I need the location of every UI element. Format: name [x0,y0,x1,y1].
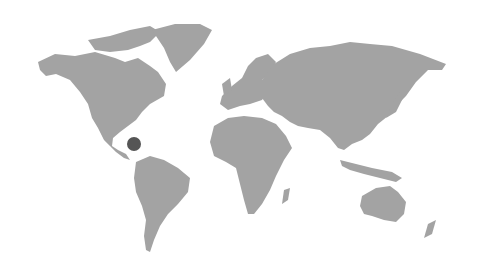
north-america [38,26,166,160]
new-zealand [424,220,436,238]
south-america [134,156,190,252]
australia [360,186,406,222]
africa [210,116,292,214]
asia [262,42,446,150]
southeast-asia-islands [340,160,402,182]
location-marker[interactable] [127,137,141,151]
madagascar [282,188,290,204]
greenland [152,24,212,72]
world-map [0,0,486,270]
